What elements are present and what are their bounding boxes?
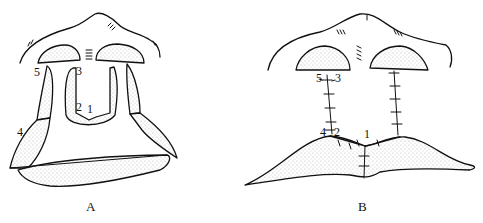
columella-hatch-b <box>357 46 361 60</box>
left-nostril-a <box>38 45 80 63</box>
alar-hatch-a <box>28 40 158 48</box>
columella-hatch-a <box>86 50 92 59</box>
right-nostril-b <box>370 46 428 70</box>
label-4-b: 4 <box>320 125 326 139</box>
right-lower-flap-a <box>130 113 177 158</box>
right-nostril-a <box>96 44 144 63</box>
lower-lip-b <box>245 136 475 185</box>
caption-b: B <box>358 199 367 214</box>
label-5-b: 5 <box>316 71 322 85</box>
caption-a: A <box>86 199 96 214</box>
panel-a: 5 3 2 1 4 A <box>10 13 177 214</box>
panel-b: 5 3 4 2 1 B <box>245 14 475 214</box>
label-5-a: 5 <box>34 65 40 79</box>
label-1-b: 1 <box>364 127 370 141</box>
left-suture-line-b <box>327 75 332 134</box>
left-nostril-b <box>296 46 350 70</box>
label-4-a: 4 <box>17 125 23 139</box>
right-lateral-flap-a <box>127 64 140 114</box>
label-1-a: 1 <box>87 102 93 116</box>
surgical-diagram: 5 3 2 1 4 A 5 3 4 2 1 B <box>0 0 483 223</box>
label-2-b: 2 <box>334 125 340 139</box>
label-2-a: 2 <box>76 100 82 114</box>
right-suture-stitches-b <box>389 73 402 124</box>
label-3-b: 3 <box>335 71 341 85</box>
left-lower-flap-a <box>10 118 50 168</box>
central-u-flap-a <box>65 67 117 125</box>
alar-hatch-b <box>337 30 402 36</box>
right-suture-line-b <box>394 71 398 135</box>
nose-hatch-a <box>108 23 115 30</box>
lower-lip-a <box>18 155 170 186</box>
label-3-a: 3 <box>76 64 82 78</box>
